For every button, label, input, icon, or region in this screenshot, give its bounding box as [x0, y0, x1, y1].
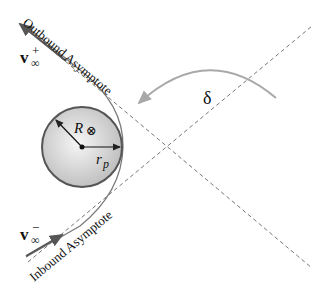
- inbound-velocity-label: v ∞ −: [20, 220, 44, 248]
- turn-angle-label: δ: [203, 88, 211, 108]
- outbound-velocity-label: v ∞ +: [20, 43, 44, 71]
- flyby-diagram: Outbound Asymptote Inbound Asymptote v ∞…: [0, 0, 314, 287]
- planet-radius-label: R ⊗: [73, 120, 97, 138]
